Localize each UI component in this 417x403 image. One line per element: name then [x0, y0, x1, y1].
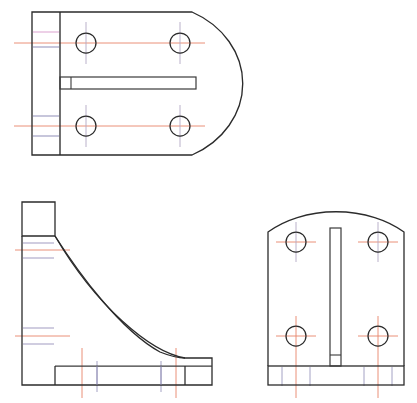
top-view-outline [32, 12, 243, 155]
side-view [15, 202, 212, 398]
front-view-holes [286, 232, 388, 346]
side-view-flange-detail-lines [23, 243, 54, 344]
top-view-centerlines [14, 22, 205, 147]
front-slot-rect [330, 228, 341, 366]
top-view-flange-detail-lines [33, 32, 59, 136]
front-base-rect [268, 366, 404, 385]
side-view-centerlines [15, 250, 176, 398]
front-view-centerlines [276, 222, 398, 398]
front-view-base [268, 366, 404, 385]
top-view-holes [76, 33, 190, 136]
slot-rect [60, 77, 196, 89]
top-view [14, 12, 243, 155]
front-view-slot [330, 228, 341, 366]
cad-drawing-canvas [0, 0, 417, 403]
front-view [268, 212, 404, 398]
top-view-slot [60, 77, 196, 89]
side-view-fillet-curve [55, 236, 185, 358]
side-view-base-lines [24, 366, 212, 385]
side-view-web-top-block [22, 202, 55, 236]
